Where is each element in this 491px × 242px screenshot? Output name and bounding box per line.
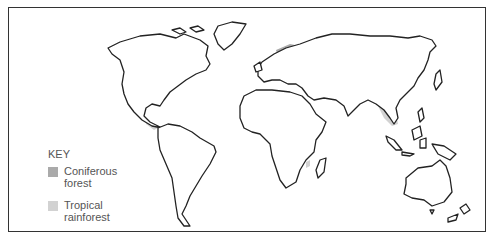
arctic-islands <box>172 26 204 34</box>
key-label-line1: Coniferous <box>64 165 117 177</box>
map-key: KEY Coniferous forest Tropical rainfores… <box>48 148 117 233</box>
tropical-swatch <box>48 201 58 211</box>
coniferous-swatch <box>48 167 58 177</box>
south-america <box>158 124 216 226</box>
africa <box>240 90 326 188</box>
new-zealand <box>448 204 470 222</box>
new-guinea <box>432 144 456 160</box>
key-title: KEY <box>48 148 117 160</box>
key-item-coniferous: Coniferous forest <box>48 165 117 189</box>
key-label-line2: rainforest <box>64 211 110 223</box>
key-label-tropical: Tropical rainforest <box>64 199 110 223</box>
greenland <box>214 22 246 50</box>
tasmania <box>430 210 434 214</box>
philippines <box>418 108 424 122</box>
madagascar <box>316 158 326 178</box>
key-label-line2: forest <box>64 177 117 189</box>
british-isles <box>254 62 262 72</box>
key-label-coniferous: Coniferous forest <box>64 165 117 189</box>
indonesia <box>386 126 426 156</box>
north-america <box>108 34 210 128</box>
key-item-tropical: Tropical rainforest <box>48 199 117 223</box>
tropical-madagascar-coast <box>306 160 310 168</box>
key-label-line1: Tropical <box>64 199 110 211</box>
australia <box>404 160 452 206</box>
japan <box>434 70 442 90</box>
